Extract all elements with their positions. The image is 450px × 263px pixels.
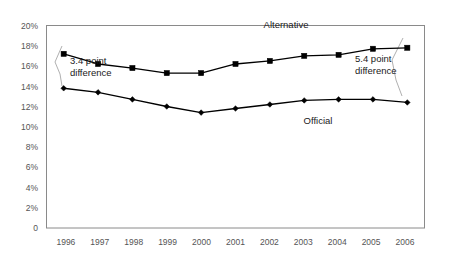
- x-tick-label: 1997: [90, 237, 109, 247]
- data-point: [164, 70, 169, 75]
- data-point: [233, 61, 238, 66]
- y-tick-label: 20%: [21, 21, 38, 31]
- line-chart: 20% 18% 16% 14% 12% 10% 8% 6% 4% 2% 0 19…: [0, 0, 450, 263]
- y-tick-label: 16%: [21, 61, 38, 71]
- data-point: [405, 100, 411, 106]
- data-point: [233, 106, 239, 112]
- x-tick-label: 2005: [362, 237, 381, 247]
- data-point: [61, 85, 67, 91]
- series-label-alternative: Alternative: [264, 19, 309, 30]
- series-label-official: Official: [304, 115, 333, 126]
- y-tick-label: 12%: [21, 102, 38, 112]
- annotation-left-line1: 3.4 point: [70, 55, 107, 66]
- x-tick-label: 2000: [192, 237, 211, 247]
- data-point: [95, 90, 101, 96]
- data-point: [405, 45, 410, 50]
- data-point: [61, 51, 66, 56]
- x-tick-label: 1998: [124, 237, 143, 247]
- annotation-right-line1: 5.4 point: [355, 53, 392, 64]
- y-tick-label: 4%: [26, 183, 39, 193]
- data-point: [267, 58, 272, 63]
- data-point: [370, 46, 375, 51]
- x-tick-label: 1999: [158, 237, 177, 247]
- data-point: [336, 97, 342, 103]
- data-point: [164, 104, 170, 110]
- y-tick-label: 0: [33, 223, 38, 233]
- x-tick-label: 1996: [56, 237, 75, 247]
- y-tick-label: 10%: [21, 122, 38, 132]
- data-point: [130, 65, 135, 70]
- y-axis: 20% 18% 16% 14% 12% 10% 8% 6% 4% 2% 0: [21, 21, 38, 233]
- annotation-left: 3.4 point difference: [70, 55, 112, 78]
- series-official: [61, 85, 410, 115]
- x-tick-label: 2006: [396, 237, 415, 247]
- data-point: [198, 110, 204, 116]
- x-tick-label: 2002: [260, 237, 279, 247]
- y-tick-label: 8%: [26, 142, 39, 152]
- chart-figure: 20% 18% 16% 14% 12% 10% 8% 6% 4% 2% 0 19…: [0, 0, 450, 263]
- data-point: [370, 97, 376, 103]
- y-tick-label: 14%: [21, 82, 38, 92]
- data-point: [336, 52, 341, 57]
- data-point: [301, 98, 307, 104]
- annotation-right: 5.4 point difference: [355, 53, 397, 76]
- y-tick-label: 6%: [26, 162, 39, 172]
- series-markers-official: [61, 85, 410, 115]
- x-tick-label: 2001: [226, 237, 245, 247]
- data-point: [302, 53, 307, 58]
- data-point: [199, 70, 204, 75]
- data-point: [130, 97, 136, 103]
- y-tick-label: 2%: [26, 203, 39, 213]
- x-axis: 1996 1997 1998 1999 2000 2001 2002 2003 …: [56, 237, 414, 247]
- annotation-right-line2: difference: [355, 65, 397, 76]
- annotation-left-line2: difference: [70, 67, 112, 78]
- data-point: [267, 102, 273, 108]
- y-tick-label: 18%: [21, 41, 38, 51]
- x-tick-label: 2003: [294, 237, 313, 247]
- x-tick-label: 2004: [328, 237, 347, 247]
